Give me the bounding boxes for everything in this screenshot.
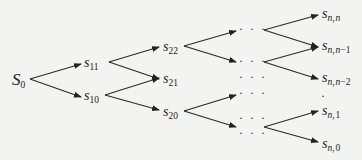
edges-level-n <box>264 15 318 142</box>
edge-to-snn <box>264 15 318 30</box>
node-snn-minus-2: sn,n−2 <box>322 70 351 87</box>
edge-s11-s22 <box>109 47 159 62</box>
edge-s0-s11 <box>30 64 81 79</box>
vertical-ellipsis-dot: · <box>321 89 327 103</box>
edge-s20-up <box>184 95 236 111</box>
edge-s0-s10 <box>30 79 81 97</box>
node-s10: s10 <box>84 88 99 105</box>
edge-to-sn1 <box>264 111 318 127</box>
node-s22: s22 <box>163 39 178 56</box>
node-sn1: sn,1 <box>322 103 341 120</box>
node-sn0: sn,0 <box>322 136 341 153</box>
ellipsis-row-3: · · · <box>239 70 267 84</box>
ellipsis-row-6: · · · <box>239 126 267 140</box>
ellipsis-row-5: · · · <box>239 111 267 125</box>
ellipsis-column: · · · · · · · · · · · · · · · · · · <box>239 22 267 140</box>
ellipsis-row-2: · · · <box>239 54 267 68</box>
binomial-tree-diagram: · · · · · · · · · · · · · · · · · · S0 s… <box>0 0 362 160</box>
node-s11: s11 <box>84 55 99 72</box>
edge-s10-s21 <box>105 78 159 95</box>
edge-to-snn1-a <box>264 30 318 47</box>
edge-to-snn2 <box>264 62 318 79</box>
edge-s20-down <box>184 111 236 127</box>
edge-s10-s20 <box>105 95 159 110</box>
node-snn-minus-1: sn,n−1 <box>322 38 351 55</box>
edges-level-1 <box>105 47 159 110</box>
node-snn: sn,n <box>322 6 341 23</box>
node-s21: s21 <box>163 71 178 88</box>
node-s0: S0 <box>12 70 26 90</box>
edge-to-snn1-b <box>264 47 318 62</box>
ellipsis-row-4: · · · <box>239 86 267 100</box>
edge-s22-down <box>184 46 236 62</box>
node-s20: s20 <box>163 104 178 121</box>
edges-level-0 <box>30 64 81 97</box>
edge-s11-s21 <box>109 62 159 79</box>
edge-s22-up <box>184 31 236 46</box>
edge-to-sn0 <box>264 127 318 142</box>
ellipsis-row-1: · · · <box>239 22 267 36</box>
edges-level-2 <box>184 31 236 127</box>
